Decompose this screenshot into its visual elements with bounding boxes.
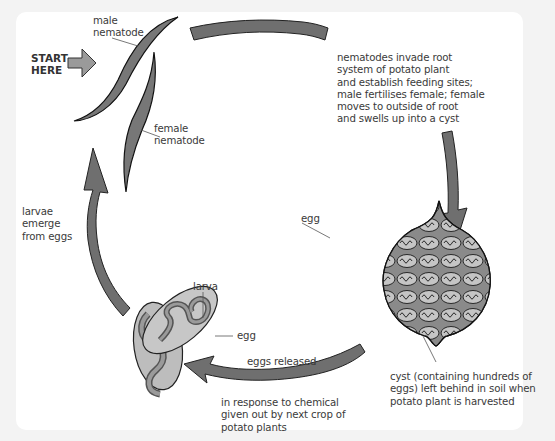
larva-label: larva [193,281,218,293]
start-arrow-icon [68,49,96,77]
invade-description: nematodes invade root system of potato p… [337,52,485,126]
eggs-released-label: eggs released [247,356,316,368]
cyst-description: cyst (containing hundreds of eggs) left … [390,371,536,408]
male-nematode-label: male nematode [93,15,144,40]
response-description: in response to chemical given out by nex… [221,397,345,434]
arrow-top-icon [190,20,328,40]
start-here-label: START HERE [31,52,68,76]
cyst-icon [302,200,495,362]
arrow-left-icon [84,148,130,316]
egg-label: egg [237,330,256,342]
cyst-egg-label: egg [301,213,320,225]
larvae-emerge-label: larvae emerge from eggs [22,206,72,243]
female-nematode-label: female nematode [154,123,205,148]
